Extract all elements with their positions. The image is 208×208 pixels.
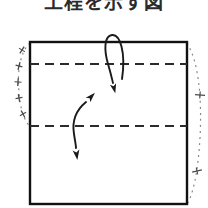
right-measure-guide — [187, 43, 205, 204]
left-measure-guide — [14, 43, 30, 127]
left-tick-5 — [18, 109, 28, 119]
right-tick-1 — [195, 91, 205, 99]
diagram-page: 工程を示す図 — [0, 0, 208, 208]
left-tick-1 — [17, 45, 27, 55]
left-tick-3 — [14, 78, 22, 86]
right-guide-curve — [187, 43, 201, 204]
fold-diagram — [0, 0, 208, 208]
left-tick-2 — [15, 61, 24, 70]
left-tick-4 — [15, 93, 23, 102]
left-guide-curve — [18, 43, 30, 127]
